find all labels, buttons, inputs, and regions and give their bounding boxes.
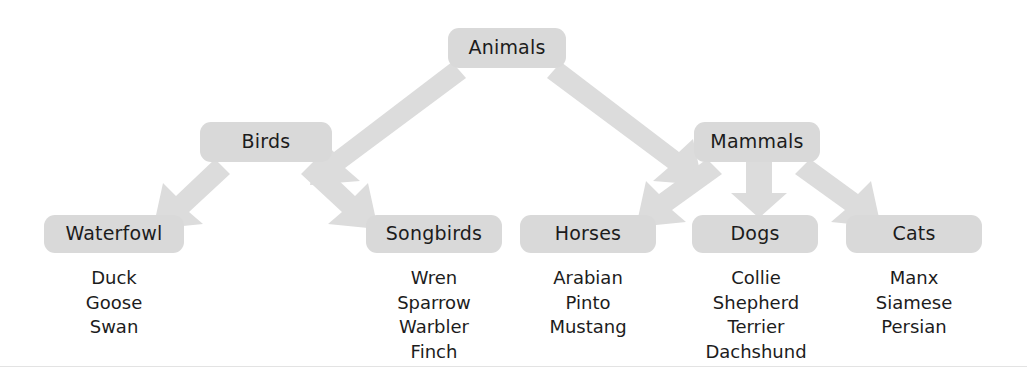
list-item: Shepherd xyxy=(688,291,824,316)
list-item: Collie xyxy=(688,266,824,291)
node-horses-label: Horses xyxy=(555,224,621,244)
list-waterfowl: Duck Goose Swan xyxy=(44,266,184,340)
node-mammals[interactable]: Mammals xyxy=(694,122,820,162)
node-waterfowl-label: Waterfowl xyxy=(65,224,162,244)
node-dogs[interactable]: Dogs xyxy=(692,215,818,253)
node-songbirds-label: Songbirds xyxy=(386,224,482,244)
node-birds[interactable]: Birds xyxy=(200,122,332,162)
node-mammals-label: Mammals xyxy=(710,132,803,152)
arrow-mammals-to-dogs xyxy=(731,159,787,218)
list-item: Finch xyxy=(366,340,502,365)
list-item: Swan xyxy=(44,315,184,340)
list-item: Persian xyxy=(846,315,982,340)
list-cats: Manx Siamese Persian xyxy=(846,266,982,340)
list-item: Dachshund xyxy=(688,340,824,365)
node-cats[interactable]: Cats xyxy=(846,215,982,253)
list-horses: Arabian Pinto Mustang xyxy=(520,266,656,340)
node-songbirds[interactable]: Songbirds xyxy=(366,215,502,253)
list-item: Siamese xyxy=(846,291,982,316)
node-waterfowl[interactable]: Waterfowl xyxy=(44,215,184,253)
list-item: Duck xyxy=(44,266,184,291)
arrow-animals-to-mammals xyxy=(547,62,703,185)
list-item: Manx xyxy=(846,266,982,291)
node-animals-label: Animals xyxy=(468,38,545,58)
list-dogs: Collie Shepherd Terrier Dachshund xyxy=(688,266,824,364)
node-cats-label: Cats xyxy=(892,224,935,244)
node-dogs-label: Dogs xyxy=(730,224,779,244)
list-item: Arabian xyxy=(520,266,656,291)
list-item: Pinto xyxy=(520,291,656,316)
list-item: Sparrow xyxy=(366,291,502,316)
node-horses[interactable]: Horses xyxy=(520,215,656,253)
arrow-animals-to-birds xyxy=(310,62,466,185)
list-item: Mustang xyxy=(520,315,656,340)
bottom-divider xyxy=(0,366,1027,367)
taxonomy-diagram: Animals Birds Mammals Waterfowl Songbird… xyxy=(0,0,1027,382)
list-songbirds: Wren Sparrow Warbler Finch xyxy=(366,266,502,364)
list-item: Wren xyxy=(366,266,502,291)
list-item: Goose xyxy=(44,291,184,316)
node-animals[interactable]: Animals xyxy=(448,28,566,68)
list-item: Terrier xyxy=(688,315,824,340)
list-item: Warbler xyxy=(366,315,502,340)
node-birds-label: Birds xyxy=(242,132,291,152)
